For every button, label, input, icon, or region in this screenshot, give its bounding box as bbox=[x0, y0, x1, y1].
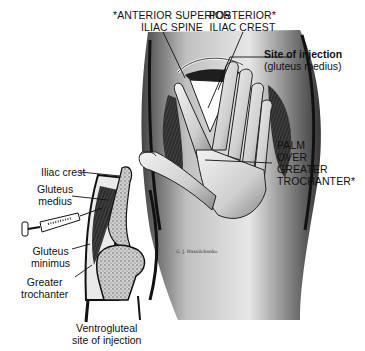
label-line: PALM bbox=[277, 139, 355, 151]
label-posterior-iliac-crest: POSTERIOR* ILIAC CREST bbox=[209, 9, 276, 33]
label-line: Gluteus bbox=[37, 183, 73, 195]
label-line: Greater bbox=[21, 276, 68, 288]
label-line: medius bbox=[37, 195, 73, 207]
figure-caption: Ventrogluteal site of injection bbox=[72, 322, 141, 346]
label-iliac-crest: Iliac crest bbox=[41, 166, 85, 178]
label-line: POSTERIOR* bbox=[209, 9, 276, 21]
label-line: site of injection bbox=[72, 334, 141, 346]
label-line: (gluteus medius) bbox=[264, 60, 342, 72]
artist-signature: G. J. Wassilchenko bbox=[176, 249, 217, 254]
label-line: ILIAC CREST bbox=[209, 21, 276, 33]
label-line: GREATER bbox=[277, 163, 355, 175]
label-greater-trochanter: Greater trochanter bbox=[21, 276, 68, 300]
label-line: Site of injection bbox=[264, 48, 342, 60]
ventrogluteal-illustration: *ANTERIOR SUPERIOR ILIAC SPINE POSTERIOR… bbox=[0, 0, 365, 351]
label-line: Gluteus bbox=[31, 245, 70, 257]
label-gluteus-minimus: Gluteus minimus bbox=[31, 245, 70, 269]
label-line: minimus bbox=[31, 257, 70, 269]
label-line: Ventrogluteal bbox=[72, 322, 141, 334]
label-site-of-injection: Site of injection (gluteus medius) bbox=[264, 48, 342, 72]
label-line: OVER bbox=[277, 151, 355, 163]
label-line: trochanter bbox=[21, 288, 68, 300]
label-palm-over-greater-trochanter: PALM OVER GREATER TROCHANTER* bbox=[277, 139, 355, 187]
label-gluteus-medius: Gluteus medius bbox=[37, 183, 73, 207]
label-line: Iliac crest bbox=[41, 166, 85, 178]
label-line: TROCHANTER* bbox=[277, 175, 355, 187]
